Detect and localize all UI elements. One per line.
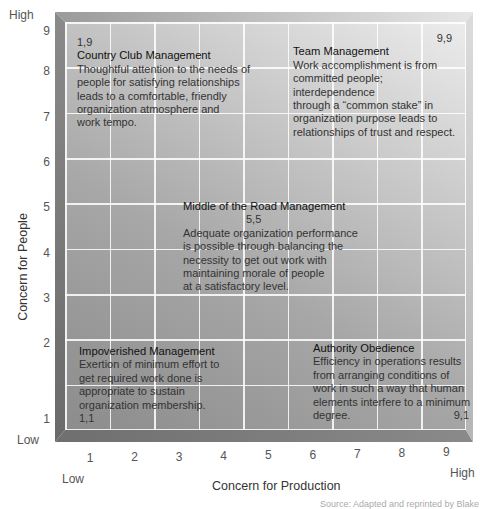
y-high-label: High	[9, 8, 34, 22]
x-tick-label: 9	[436, 445, 456, 459]
x-low-label: Low	[62, 472, 84, 486]
desc-line: organization membership.	[79, 399, 219, 412]
desc-line: from arranging conditions of	[313, 369, 463, 382]
desc-line: at a satisfactory level.	[183, 280, 358, 293]
annotation-title: Country Club Management	[77, 49, 250, 62]
desc-line: committed people; interdependence	[293, 72, 466, 99]
impoverished-annotation: Impoverished Management Exertion of mini…	[79, 345, 219, 425]
y-tick-label: 2	[30, 336, 50, 350]
coord-label: 5,5	[183, 213, 358, 226]
x-axis-title: Concern for Production	[212, 479, 341, 493]
last-line-row: degree. 9,1	[313, 409, 463, 422]
x-tick-label: 3	[169, 450, 189, 464]
desc-line: degree.	[313, 409, 350, 421]
x-tick-label: 6	[303, 448, 323, 462]
y-tick-label: 9	[30, 24, 50, 38]
desc-line: work tempo.	[77, 116, 250, 129]
grid-border-top	[65, 22, 466, 24]
x-high-label: High	[450, 466, 475, 480]
y-tick-label: 1	[30, 412, 50, 426]
x-tick-label: 7	[347, 447, 367, 461]
grid-border-left	[65, 22, 67, 430]
x-tick-label: 8	[392, 446, 412, 460]
coord-label: 1,9	[77, 36, 250, 49]
frame-top-bevel	[55, 12, 473, 22]
desc-line: work in such a way that human	[313, 382, 463, 395]
coord-label: 9,1	[454, 409, 469, 422]
annotation-title: Impoverished Management	[79, 345, 219, 358]
y-tick-label: 8	[30, 64, 50, 78]
desc-line: Efficiency in operations results	[313, 355, 463, 368]
desc-line: Thoughtful attention to the needs of	[77, 63, 250, 76]
frame-bottom-bevel	[55, 430, 473, 442]
desc-line: appropriate to sustain	[79, 385, 219, 398]
x-tick-label: 5	[258, 448, 278, 462]
x-tick-label: 4	[214, 449, 234, 463]
desc-line: organization atmosphere and	[77, 103, 250, 116]
gridline-horizontal	[65, 158, 466, 160]
x-tick-label: 2	[125, 450, 145, 464]
managerial-grid: 1,9 Country Club Management Thoughtful a…	[65, 22, 466, 430]
annotation-title: Authority Obedience	[313, 342, 463, 355]
y-low-label: Low	[17, 433, 39, 447]
grid-border-bottom	[65, 429, 466, 431]
desc-line: through a “common stake” in	[293, 99, 466, 112]
authority-obedience-annotation: Authority Obedience Efficiency in operat…	[313, 342, 463, 422]
annotation-title: Team Management	[293, 45, 466, 58]
desc-line: get required work done is	[79, 372, 219, 385]
country-club-annotation: 1,9 Country Club Management Thoughtful a…	[77, 36, 250, 130]
coord-label: 9,9	[293, 32, 466, 45]
source-credit: Source: Adapted and reprinted by Blake	[320, 499, 479, 509]
team-annotation: 9,9 Team Management Work accomplishment …	[293, 32, 466, 139]
desc-line: elements interfere to a minimum	[313, 396, 463, 409]
desc-line: maintaining morale of people	[183, 267, 358, 280]
y-tick-label: 5	[30, 200, 50, 214]
y-tick-label: 7	[30, 110, 50, 124]
y-axis-title: Concern for People	[16, 207, 30, 327]
desc-line: necessity to get out work with	[183, 254, 358, 267]
y-tick-label: 6	[30, 155, 50, 169]
annotation-title: Middle of the Road Management	[183, 200, 358, 213]
middle-road-annotation: Middle of the Road Management 5,5 Adequa…	[183, 200, 358, 294]
frame-left-bevel	[55, 12, 65, 442]
desc-line: is possible through balancing the	[183, 240, 358, 253]
gridline-horizontal	[65, 294, 466, 296]
y-tick-label: 3	[30, 291, 50, 305]
desc-line: Adequate organization performance	[183, 227, 358, 240]
frame-right-bevel	[466, 12, 473, 442]
desc-line: leads to a comfortable, friendly	[77, 90, 250, 103]
coord-label: 1,1	[79, 412, 219, 425]
desc-line: relationships of trust and respect.	[293, 126, 466, 139]
y-tick-label: 4	[30, 246, 50, 260]
desc-line: Work accomplishment is from	[293, 59, 466, 72]
gridline-horizontal	[65, 339, 466, 341]
desc-line: people for satisfying relationships	[77, 76, 250, 89]
desc-line: Exertion of minimum effort to	[79, 358, 219, 371]
x-tick-label: 1	[80, 451, 100, 465]
desc-line: organization purpose leads to	[293, 112, 466, 125]
